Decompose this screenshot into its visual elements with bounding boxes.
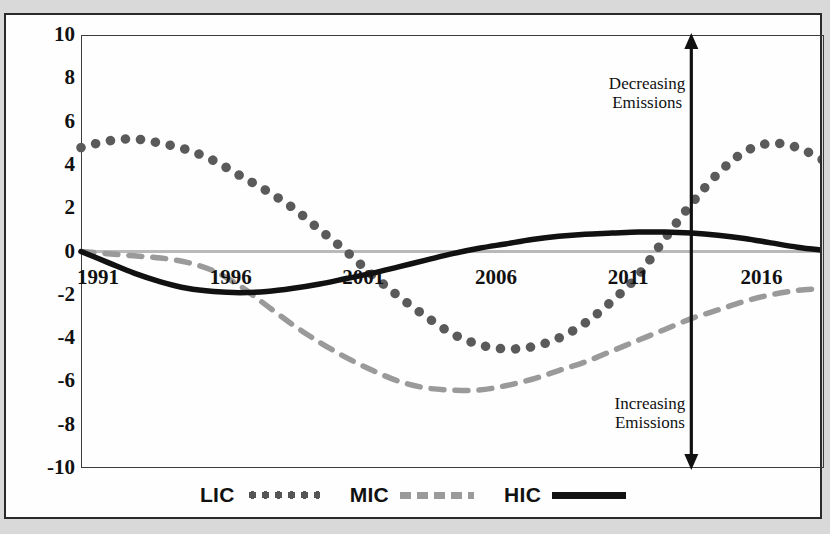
y-tick-label: 0	[29, 241, 75, 262]
y-tick-label: 6	[29, 111, 75, 132]
legend-label: LIC	[200, 483, 235, 507]
legend-label: HIC	[504, 483, 541, 507]
annotation-line: Emissions	[609, 93, 685, 112]
legend-item-lic[interactable]: LIC	[200, 483, 320, 507]
legend-item-mic[interactable]: MIC	[350, 483, 474, 507]
x-tick-label: 2011	[608, 265, 649, 290]
legend-swatch-dotted	[246, 491, 320, 499]
x-tick-label: 2001	[342, 265, 384, 290]
y-tick-label: -10	[29, 457, 75, 478]
emissions-line-chart: 1086420-2-4-6-8-10 199119962001200620112…	[6, 15, 820, 517]
x-tick-label: 2016	[740, 265, 782, 290]
legend-label: MIC	[350, 483, 389, 507]
y-tick-label: 8	[29, 67, 75, 88]
chart-legend: LICMICHIC	[6, 477, 820, 513]
y-tick-label: -8	[29, 414, 75, 435]
y-tick-label: -6	[29, 370, 75, 391]
x-tick-label: 2006	[475, 265, 517, 290]
legend-swatch-dashed	[400, 492, 474, 499]
page-border-frame: 1086420-2-4-6-8-10 199119962001200620112…	[4, 13, 822, 519]
annotation-line: Decreasing	[609, 74, 685, 93]
plot-area	[81, 35, 824, 468]
y-axis-labels: 1086420-2-4-6-8-10	[11, 35, 75, 468]
y-tick-label: 4	[29, 154, 75, 175]
scanned-page: 1086420-2-4-6-8-10 199119962001200620112…	[0, 0, 830, 534]
annotation-increasing-emissions: IncreasingEmissions	[615, 394, 686, 432]
annotation-line: Increasing	[615, 394, 686, 413]
y-tick-label: -4	[29, 327, 75, 348]
legend-item-hic[interactable]: HIC	[504, 483, 626, 507]
y-tick-label: -2	[29, 284, 75, 305]
annotation-decreasing-emissions: DecreasingEmissions	[609, 74, 685, 112]
x-tick-label: 1991	[77, 265, 119, 290]
y-tick-label: 10	[29, 24, 75, 45]
x-tick-label: 1996	[210, 265, 252, 290]
y-tick-label: 2	[29, 197, 75, 218]
legend-swatch-solid	[552, 492, 626, 499]
annotation-line: Emissions	[615, 413, 686, 432]
